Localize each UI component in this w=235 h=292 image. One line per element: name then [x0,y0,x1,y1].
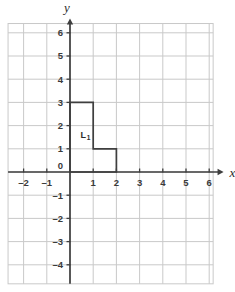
y-axis-arrowhead [67,18,73,24]
x-tick-label: 5 [183,177,189,188]
y-tick-label: 6 [58,27,63,38]
shape-label-L1: L [80,130,86,140]
origin-label: 0 [58,160,63,171]
y-tick-label: –3 [52,236,63,247]
x-tick-label: 3 [137,177,142,188]
x-tick-label: 2 [114,177,119,188]
x-tick-label: 4 [160,177,166,188]
y-tick-label: 5 [58,50,64,61]
grid-border [8,24,213,284]
y-tick-label: 2 [58,120,63,131]
x-tick-label: –1 [42,177,53,188]
x-tick-label: 1 [91,177,97,188]
x-axis-arrowhead [218,169,224,175]
grid-lines [8,24,213,284]
x-tick-label: 6 [207,177,212,188]
shape-label-subscript-L1: 1 [87,134,91,141]
x-axis-label: x [229,165,235,180]
y-tick-label: –1 [52,190,63,201]
y-tick-label: –4 [52,259,63,270]
coordinate-plane-figure: –2–1123456654321–1–2–3–40 L1 xy [0,0,235,292]
y-tick-label: 3 [58,97,63,108]
y-tick-label: 1 [58,143,64,154]
y-axis-label: y [62,0,70,15]
y-tick-label: –2 [52,213,63,224]
y-tick-label: 4 [58,74,64,85]
coordinate-plot: –2–1123456654321–1–2–3–40 L1 xy [0,0,235,292]
x-tick-label: –2 [18,177,29,188]
